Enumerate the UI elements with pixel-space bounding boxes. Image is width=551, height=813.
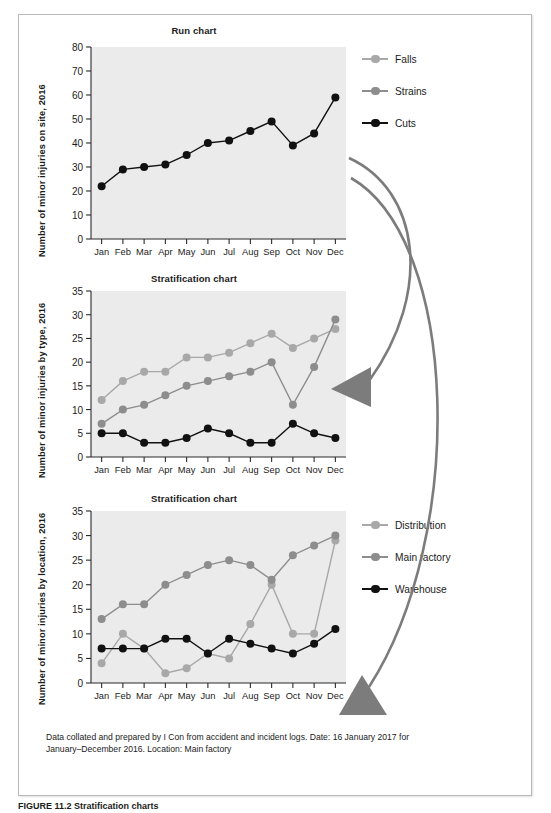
x-axis-tick-label: Dec <box>327 691 344 701</box>
y-axis-tick-label: 25 <box>72 555 84 566</box>
data-point[interactable] <box>161 669 169 677</box>
legend-swatch-main-factory <box>362 556 388 558</box>
data-point[interactable] <box>204 650 212 658</box>
data-point[interactable] <box>289 401 297 409</box>
data-point[interactable] <box>161 439 169 447</box>
data-point[interactable] <box>98 420 106 428</box>
data-point[interactable] <box>204 561 212 569</box>
x-axis-tick-label: Nov <box>306 247 323 257</box>
legend-item-cuts[interactable]: Cuts <box>362 113 427 133</box>
data-point[interactable] <box>246 368 254 376</box>
data-point[interactable] <box>310 129 318 137</box>
data-point[interactable] <box>161 368 169 376</box>
data-point[interactable] <box>310 429 318 437</box>
data-point[interactable] <box>331 93 339 101</box>
data-point[interactable] <box>225 556 233 564</box>
legend-item-warehouse[interactable]: Warehouse <box>362 579 450 599</box>
data-point[interactable] <box>331 315 339 323</box>
data-point[interactable] <box>119 165 127 173</box>
data-point[interactable] <box>331 532 339 540</box>
data-point[interactable] <box>183 382 191 390</box>
legend-swatch-distribution <box>362 524 388 526</box>
data-point[interactable] <box>246 127 254 135</box>
data-point[interactable] <box>310 630 318 638</box>
x-axis-tick-label: Sep <box>263 465 280 475</box>
data-point[interactable] <box>310 541 318 549</box>
data-point[interactable] <box>268 358 276 366</box>
data-point[interactable] <box>331 434 339 442</box>
data-point[interactable] <box>268 645 276 653</box>
y-axis-label-by-location: Number of minor injuries by location, 20… <box>37 513 47 705</box>
data-point[interactable] <box>183 151 191 159</box>
data-point[interactable] <box>183 635 191 643</box>
data-point[interactable] <box>331 625 339 633</box>
data-point[interactable] <box>225 137 233 145</box>
data-point[interactable] <box>161 635 169 643</box>
legend-item-main-factory[interactable]: Main factory <box>362 547 450 567</box>
data-point[interactable] <box>183 571 191 579</box>
data-point[interactable] <box>119 406 127 414</box>
data-point[interactable] <box>268 330 276 338</box>
data-point[interactable] <box>310 334 318 342</box>
data-point[interactable] <box>225 429 233 437</box>
data-point[interactable] <box>289 650 297 658</box>
y-axis-tick-label: 20 <box>72 186 84 197</box>
data-point[interactable] <box>225 372 233 380</box>
data-point[interactable] <box>98 659 106 667</box>
data-point[interactable] <box>98 615 106 623</box>
data-point[interactable] <box>119 377 127 385</box>
data-point[interactable] <box>140 401 148 409</box>
data-point[interactable] <box>119 600 127 608</box>
data-point[interactable] <box>183 434 191 442</box>
data-point[interactable] <box>140 163 148 171</box>
data-point[interactable] <box>204 377 212 385</box>
x-axis-tick-label: Jul <box>223 465 235 475</box>
data-point[interactable] <box>98 429 106 437</box>
data-point[interactable] <box>161 161 169 169</box>
data-point[interactable] <box>183 664 191 672</box>
data-point[interactable] <box>289 420 297 428</box>
x-axis-tick-label: Jan <box>94 247 109 257</box>
data-point[interactable] <box>140 600 148 608</box>
data-point[interactable] <box>268 117 276 125</box>
data-point[interactable] <box>119 645 127 653</box>
data-point[interactable] <box>246 439 254 447</box>
x-axis-tick-label: Feb <box>115 247 131 257</box>
data-point[interactable] <box>246 640 254 648</box>
data-point[interactable] <box>268 439 276 447</box>
data-point[interactable] <box>289 344 297 352</box>
data-point[interactable] <box>289 141 297 149</box>
data-point[interactable] <box>140 439 148 447</box>
data-point[interactable] <box>119 630 127 638</box>
data-point[interactable] <box>204 425 212 433</box>
data-point[interactable] <box>289 551 297 559</box>
data-point[interactable] <box>98 645 106 653</box>
data-point[interactable] <box>98 396 106 404</box>
legend-item-strains[interactable]: Strains <box>362 81 427 101</box>
legend-item-distribution[interactable]: Distribution <box>362 515 450 535</box>
data-point[interactable] <box>140 368 148 376</box>
data-point[interactable] <box>119 429 127 437</box>
data-point[interactable] <box>246 561 254 569</box>
data-point[interactable] <box>204 139 212 147</box>
data-point[interactable] <box>183 353 191 361</box>
data-point[interactable] <box>310 640 318 648</box>
data-point[interactable] <box>140 645 148 653</box>
data-point[interactable] <box>98 182 106 190</box>
x-axis-tick-label: Aug <box>242 247 259 257</box>
data-point[interactable] <box>225 349 233 357</box>
data-point[interactable] <box>161 581 169 589</box>
legend-item-falls[interactable]: Falls <box>362 49 427 69</box>
data-point[interactable] <box>204 353 212 361</box>
data-point[interactable] <box>289 630 297 638</box>
data-point[interactable] <box>310 363 318 371</box>
x-axis-tick-label: Sep <box>263 691 280 701</box>
data-point[interactable] <box>225 635 233 643</box>
data-point[interactable] <box>246 339 254 347</box>
data-point[interactable] <box>268 576 276 584</box>
data-point[interactable] <box>246 620 254 628</box>
y-axis-tick-label: 10 <box>72 405 84 416</box>
data-point[interactable] <box>225 654 233 662</box>
chart-stratification-by-type: Stratification chart Number of minor inj… <box>19 273 379 488</box>
data-point[interactable] <box>161 391 169 399</box>
